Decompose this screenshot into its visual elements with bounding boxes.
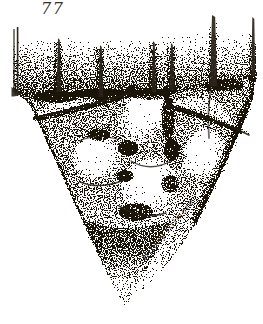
- illustration-page: 77: [0, 0, 263, 324]
- stipple-illustration: [0, 0, 263, 324]
- stipple-tone-layer: [13, 17, 258, 314]
